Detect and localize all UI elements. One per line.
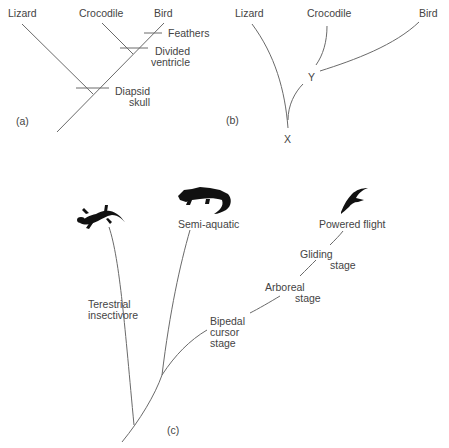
- character-divided-ventricle-line2: ventricle: [150, 57, 190, 68]
- panel-a-taxon-crocodile: Crocodile: [79, 8, 123, 19]
- panel-a-taxon-bird: Bird: [154, 8, 173, 19]
- panel-b-tree: [252, 22, 419, 128]
- panel-a-label: (a): [16, 116, 29, 127]
- panel-a-taxon-lizard: Lizard: [8, 8, 37, 19]
- crocodile-silhouette-icon: [178, 187, 231, 214]
- panel-b-label: (b): [226, 115, 239, 126]
- node-x: X: [284, 134, 291, 145]
- panel-b-taxon-bird: Bird: [419, 8, 438, 19]
- character-feathers: Feathers: [168, 28, 209, 39]
- node-y: Y: [308, 72, 315, 83]
- branch-bipedal-line3: stage: [210, 338, 236, 349]
- panel-b-taxon-crocodile: Crocodile: [307, 8, 351, 19]
- panel-b-taxon-lizard: Lizard: [235, 8, 264, 19]
- panel-a-cladogram: [22, 23, 164, 132]
- branch-gliding-line1: Gliding: [300, 249, 333, 260]
- branch-arboreal-line2: stage: [295, 293, 321, 304]
- lizard-silhouette-icon: [77, 205, 126, 229]
- branch-powered-flight: Powered flight: [319, 219, 386, 230]
- branch-semi-aquatic: Semi-aquatic: [178, 219, 239, 230]
- branch-terrestrial-line2: insectivore: [88, 310, 138, 321]
- bird-silhouette-icon: [341, 188, 368, 214]
- panel-c-label: (c): [167, 425, 179, 436]
- character-diapsid-skull-line2: skull: [110, 97, 150, 108]
- branch-gliding-line2: stage: [330, 260, 356, 271]
